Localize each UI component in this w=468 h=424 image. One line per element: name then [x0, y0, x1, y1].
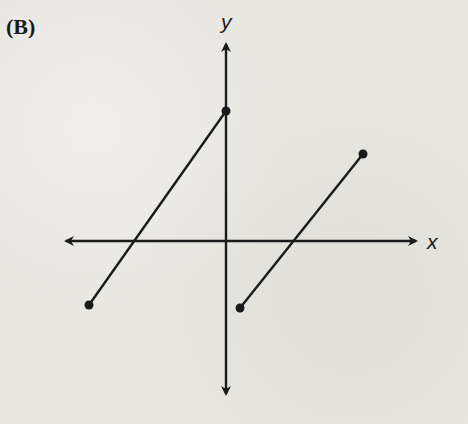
x-axis-label: x: [426, 230, 439, 253]
closed-dot: [359, 150, 368, 159]
left-segment: [85, 107, 231, 310]
right-segment: [236, 150, 368, 313]
graph: y x: [0, 0, 468, 424]
closed-dot: [85, 301, 94, 310]
y-axis-label: y: [219, 10, 233, 33]
closed-dot: [222, 107, 231, 116]
closed-dot: [236, 304, 245, 313]
